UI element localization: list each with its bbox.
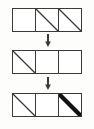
- grid-cell: [13, 94, 36, 116]
- bold-backslash-diagonal-icon: [59, 94, 81, 116]
- diagram-stage: [0, 0, 94, 129]
- grid-cell: [36, 9, 59, 31]
- cell-row-middle: [12, 50, 82, 74]
- backslash-diagonal-icon: [59, 9, 81, 31]
- empty-cell-icon: [36, 51, 58, 73]
- backslash-diagonal-icon: [36, 9, 58, 31]
- grid-cell: [36, 94, 59, 116]
- backslash-diagonal-icon: [13, 94, 35, 116]
- backslash-diagonal-icon: [13, 51, 35, 73]
- grid-cell: [13, 9, 36, 31]
- grid-cell: [59, 51, 81, 73]
- grid-cell: [59, 9, 81, 31]
- grid-cell: [13, 51, 36, 73]
- cell-row-top: [12, 8, 82, 32]
- empty-cell-icon: [36, 94, 58, 116]
- cell-row-bottom: [12, 93, 82, 117]
- down-arrow-icon: [44, 34, 52, 47]
- grid-cell: [36, 51, 59, 73]
- empty-cell-icon: [13, 9, 35, 31]
- down-arrow-icon: [44, 77, 52, 90]
- grid-cell: [59, 94, 81, 116]
- empty-cell-icon: [59, 51, 81, 73]
